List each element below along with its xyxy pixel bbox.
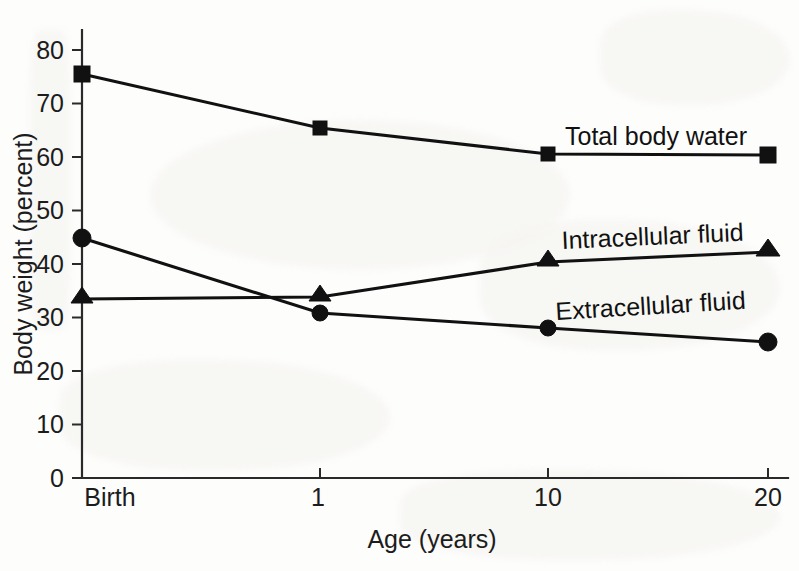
y-axis-tick-labels: 80 70 60 50 40 30 20 10 0 (36, 36, 64, 492)
series-label-total-body-water: Total body water (565, 122, 747, 150)
total-body-water-point-10 (541, 147, 555, 161)
x-label-10: 10 (534, 483, 562, 511)
y-label-0: 0 (50, 464, 64, 492)
y-label-60: 60 (36, 143, 64, 171)
intracellular-fluid-point-birth (71, 287, 93, 303)
x-label-1: 1 (311, 483, 325, 511)
extracellular-fluid-point-10 (540, 320, 556, 336)
body-water-composition-chart: 80 70 60 50 40 30 20 10 0 Birth 1 10 20 … (0, 0, 799, 571)
y-label-10: 10 (36, 410, 64, 438)
total-body-water-point-1 (313, 121, 327, 135)
series-label-extracellular-fluid: Extracellular fluid (555, 286, 747, 325)
y-label-20: 20 (36, 357, 64, 385)
y-axis-title: Body weight (percent) (9, 132, 37, 375)
extracellular-fluid-point-1 (312, 305, 328, 321)
extracellular-fluid-point-birth (73, 229, 91, 247)
intracellular-fluid-point-20 (756, 239, 780, 256)
x-label-20: 20 (754, 483, 782, 511)
total-body-water-point-20 (760, 147, 776, 163)
x-label-birth: Birth (84, 483, 135, 511)
y-label-40: 40 (36, 250, 64, 278)
series-label-intracellular-fluid: Intracellular fluid (561, 218, 744, 254)
extracellular-fluid-point-20 (759, 333, 777, 351)
y-label-50: 50 (36, 196, 64, 224)
y-label-80: 80 (36, 36, 64, 64)
x-axis-tick-labels: Birth 1 10 20 (84, 483, 782, 511)
y-label-30: 30 (36, 303, 64, 331)
intracellular-fluid-point-10 (537, 250, 559, 266)
y-label-70: 70 (36, 89, 64, 117)
total-body-water-point-birth (74, 66, 90, 82)
intracellular-fluid-point-1 (309, 285, 331, 301)
x-axis-title: Age (years) (367, 525, 496, 553)
chart-page: 80 70 60 50 40 30 20 10 0 Birth 1 10 20 … (0, 0, 799, 571)
